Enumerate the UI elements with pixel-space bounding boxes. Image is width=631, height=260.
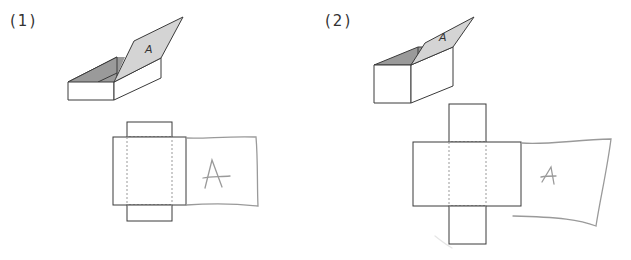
box-2-lid-label: A: [438, 31, 447, 44]
box-1: [68, 17, 183, 100]
net-1-bottom-tab: [127, 205, 172, 221]
box-2-front-face: [374, 65, 411, 103]
box-1-front-face: [68, 82, 114, 100]
net-2-top-arm: [449, 104, 486, 142]
box-2: [374, 17, 474, 103]
diagram-canvas: A A: [0, 0, 631, 260]
net-1: [113, 122, 186, 221]
net-1-top-tab: [127, 122, 172, 137]
net-2-body: [413, 142, 521, 206]
net-1-body: [113, 137, 186, 205]
net-1-hand-panel: [186, 137, 258, 206]
net-2-bottom-arm: [449, 206, 486, 244]
box-1-lid-label: A: [144, 43, 153, 56]
net-2: [413, 104, 521, 244]
